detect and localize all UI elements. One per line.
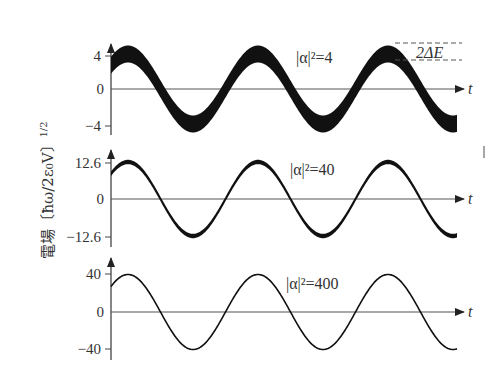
tick-label-bot-neg: −40 [78, 341, 101, 357]
tick-label-mid-neg: −12.6 [66, 229, 101, 245]
tick-label-top-zero: 0 [97, 81, 105, 97]
panel-bottom: 40 0 −40 |α|²=400 t [78, 258, 473, 360]
t-label-top: t [468, 80, 473, 97]
tick-label-bot-zero: 0 [97, 304, 105, 320]
y-axis-label-exp: 1/2 [38, 121, 49, 137]
panel-middle: 12.6 0 −12.6 |α|²=40 t [66, 150, 473, 247]
chart-canvas: 4 0 −4 |α|²=4 2ΔE t 12.6 0 −12.6 |α|²=40… [0, 0, 493, 383]
tick-label-bot-pos: 40 [86, 266, 101, 282]
panel-top: 4 0 −4 |α|²=4 2ΔE t [85, 43, 473, 135]
band-annotation: 2ΔE [416, 44, 443, 61]
t-label-bot: t [468, 303, 473, 320]
annotation-bot: |α|²=400 [286, 275, 339, 293]
tick-label-mid-zero: 0 [97, 191, 105, 207]
tick-label-top-neg: −4 [85, 118, 101, 134]
t-label-mid: t [468, 190, 473, 207]
tick-label-top-pos: 4 [94, 48, 102, 64]
y-axis-label: 電場〔ħω/2ε₀V〕1/2 [26, 100, 66, 280]
annotation-mid: |α|²=40 [290, 161, 335, 179]
y-axis-label-text: 電場〔ħω/2ε₀V〕 [39, 137, 57, 258]
annotation-top: |α|²=4 [296, 49, 333, 67]
tick-label-mid-pos: 12.6 [75, 155, 102, 171]
